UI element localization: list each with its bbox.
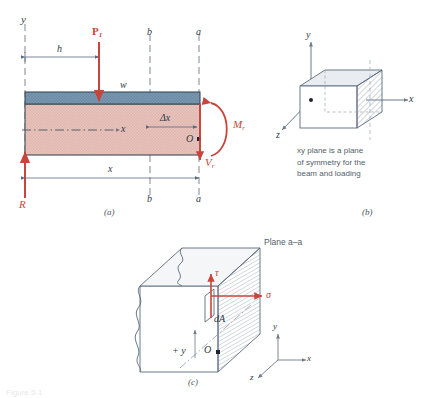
- panel-a-label-dim-x: x: [108, 164, 112, 174]
- panel-b-symmetry-note-line-2: of symmetry for the: [297, 157, 407, 169]
- panel-a-label-section-a-bottom: a: [196, 194, 201, 204]
- panel-c-label-normal-stress-sigma: σ: [266, 290, 271, 300]
- panel-a-label-moment-mr: Mr: [233, 119, 245, 132]
- panel-a-label-shear-vr-letter: V: [205, 156, 212, 168]
- panel-c-caption: (c): [188, 378, 198, 387]
- panel-b-label-axis-x: x: [409, 94, 413, 104]
- panel-a-label-y-axis: y: [21, 14, 26, 25]
- panel-c-axis-z: [258, 360, 278, 378]
- panel-b-caption: (b): [362, 208, 373, 217]
- panel-b-box-front-face: [300, 86, 357, 128]
- panel-a-label-shear-vr-subscript: r: [212, 162, 215, 170]
- panel-c-label-plane-aa: Plane a–a: [264, 238, 302, 247]
- panel-a-label-dim-h: h: [57, 44, 62, 54]
- panel-b-label-axis-y: y: [306, 30, 310, 40]
- panel-c-label-axis-x: x: [307, 354, 311, 363]
- panel-a-label-section-a-top: a: [196, 27, 201, 37]
- figure-number-tag: Figure 5-1: [6, 388, 42, 397]
- panel-a-graphics: [22, 24, 227, 198]
- panel-a-label-reaction-r: R: [19, 199, 26, 210]
- panel-a-label-distributed-load-w: w: [120, 80, 127, 90]
- panel-c-label-area-dA: dA: [214, 314, 225, 324]
- panel-a-label-origin-o: O: [186, 134, 193, 144]
- panel-a-label-moment-mr-subscript: r: [242, 124, 245, 132]
- beam-flange-blue: [25, 92, 200, 104]
- panel-c-label-axis-y: y: [273, 322, 277, 331]
- panel-a-caption: (a): [104, 208, 115, 217]
- panel-b-centroid-dot: [309, 98, 313, 102]
- panel-b-symmetry-note-line-1: xy plane is a plane: [297, 145, 407, 157]
- figure-container: y P1 h w b b a a x Δx Mr Vr O R x (a) y …: [0, 0, 422, 398]
- panel-a-label-delta-x: Δx: [160, 113, 170, 123]
- figure-vector-graphics: [0, 0, 422, 398]
- panel-a-label-load-p1-letter: P: [92, 25, 99, 37]
- panel-a-label-moment-mr-letter: M: [233, 118, 242, 130]
- panel-b-graphics: [282, 42, 408, 140]
- panel-a-label-load-p1: P1: [92, 26, 102, 39]
- panel-c-label-shear-stress-tau: τ: [215, 268, 219, 278]
- panel-c-label-plus-y: + y: [172, 346, 186, 356]
- panel-a-label-load-p1-subscript: 1: [99, 31, 103, 39]
- panel-a-label-section-b-top: b: [147, 27, 152, 37]
- panel-c-origin-dot: [216, 350, 220, 354]
- moment-arrow-mr: [211, 103, 227, 156]
- panel-b-symmetry-note-line-3: beam and loading: [297, 168, 407, 180]
- panel-c-label-axis-z: z: [250, 373, 254, 382]
- panel-b-label-axis-z: z: [276, 130, 280, 140]
- panel-a-label-neutral-axis-x: x: [121, 124, 125, 134]
- panel-c-label-origin-o: O: [204, 345, 211, 355]
- panel-a-label-shear-vr: Vr: [205, 157, 215, 170]
- panel-c-graphics: [135, 242, 306, 378]
- panel-b-symmetry-note: xy plane is a plane of symmetry for the …: [297, 145, 407, 180]
- panel-a-label-section-b-bottom: b: [147, 194, 152, 204]
- beam-web-pink: [25, 104, 200, 155]
